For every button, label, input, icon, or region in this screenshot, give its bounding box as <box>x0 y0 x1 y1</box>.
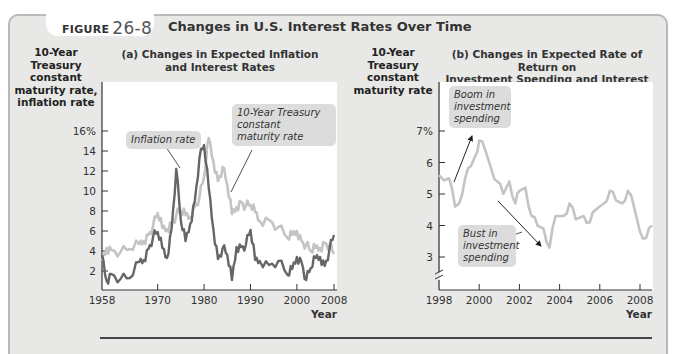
x-tick-label: 1990 <box>237 294 264 306</box>
y-tick-label: 7% <box>416 125 433 137</box>
boom-annotation: Boom in investment spending <box>449 86 511 128</box>
x-tick-label: 1980 <box>191 294 218 306</box>
x-tick-label: 2002 <box>506 294 533 306</box>
x-tick-label: 1958 <box>89 294 116 306</box>
annotation-line: investment <box>463 240 511 252</box>
bust-annotation: Bust in investment spending <box>458 225 516 267</box>
y-tick-label: 3 <box>426 251 433 263</box>
y-tick-label: 14 <box>83 145 97 157</box>
x-tick-label: 1970 <box>144 294 171 306</box>
x-tick-label: 2006 <box>586 294 613 306</box>
y-tick-label: 6 <box>426 157 433 169</box>
y-tick-label: 12 <box>83 165 96 177</box>
annotation-line: 10-Year Treasury <box>237 107 331 119</box>
bottom-divider <box>100 337 652 339</box>
inflation-rate-annotation: Inflation rate <box>126 131 201 149</box>
x-tick-label: 2000 <box>466 294 493 306</box>
y-tick-label: 6 <box>89 225 96 237</box>
x-axis-label: Year <box>310 308 338 320</box>
y-tick-label: 10 <box>83 185 96 197</box>
x-tick-label: 2008 <box>627 294 654 306</box>
y-tick-label: 5 <box>426 188 433 200</box>
annotation-line: maturity rate <box>237 131 331 143</box>
y-tick-label: 4 <box>89 245 96 257</box>
x-axis-label: Year <box>625 308 653 320</box>
y-tick-label: 8 <box>89 205 96 217</box>
x-tick-label: 2000 <box>284 294 311 306</box>
annotation-line: spending <box>463 252 511 264</box>
annotation-line: Bust in <box>463 228 511 240</box>
annotation-line: investment <box>454 101 506 113</box>
y-tick-label: 4 <box>426 220 433 232</box>
annotation-line: constant <box>237 119 331 131</box>
y-tick-label: 16% <box>73 125 96 137</box>
annotation-line: Boom in <box>454 89 506 101</box>
x-tick-label: 2004 <box>546 294 573 306</box>
annotation-line: spending <box>454 113 506 125</box>
treasury-rate-annotation: 10-Year Treasury constant maturity rate <box>232 104 336 146</box>
x-tick-label: 1998 <box>426 294 453 306</box>
x-tick-label: 2008 <box>321 294 348 306</box>
y-tick-label: 2 <box>89 265 96 277</box>
